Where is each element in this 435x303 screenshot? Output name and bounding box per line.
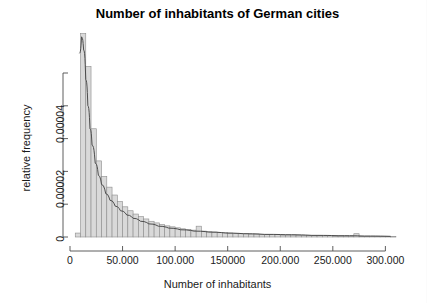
y-axis-title: relative frequency [20,78,32,218]
histogram-figure: Number of inhabitants of German cities 0… [0,0,435,303]
histogram-bar [312,236,317,237]
histogram-bar [291,235,296,237]
histogram-bar [249,234,254,237]
histogram-bar [212,232,217,237]
histogram-bars [75,34,396,237]
histogram-bar [280,235,285,237]
histogram-bar [133,214,138,237]
histogram-bar [96,161,101,237]
histogram-bar [286,235,291,237]
x-axis-title: Number of inhabitants [0,278,435,290]
density-curve [79,37,390,236]
histogram-bar [233,233,238,237]
histogram-bar [102,176,107,237]
histogram-bar [86,66,91,237]
page-edge-line [426,0,427,303]
histogram-bar [275,235,280,237]
histogram-bar [75,233,80,237]
histogram-bar [228,233,233,237]
x-tick-label: 300.000 [345,254,425,266]
histogram-bar [301,235,306,237]
histogram-bar [238,234,243,237]
y-tick-label: 0.00004 [54,105,66,185]
histogram-bar [296,235,301,237]
histogram-bar [270,235,275,237]
